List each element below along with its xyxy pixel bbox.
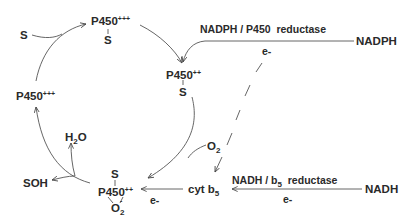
diagram-canvas: S P450+++ S P450++ S P450+++ NADPH / P45… [0,0,415,218]
nadh-reductase-label: NADH / b5 reductase [232,174,338,189]
water-o: O [78,131,87,143]
substrate-join-line [32,34,62,38]
dash-3 [236,110,240,120]
p450-right-charge: ++ [193,69,201,76]
p450-top-ligand: S [104,34,112,46]
node-p450-bottom: S P450++ O2 - [98,168,133,217]
arrow-top-to-right [140,25,182,63]
p450-right-ligand: S [179,86,187,98]
p450-bottom-o: O [111,202,120,214]
nadh-reductase-post: reductase [282,174,338,186]
arrow-bottom-to-left [36,107,90,183]
p450-left-label: P450 [16,90,43,102]
p450-bottom-o-sub: 2 [120,208,125,217]
water-h: H [65,131,73,143]
cyt-b5-subscript: 5 [215,189,220,198]
cyt-b5-label: cyt b5 [188,183,220,198]
dash-1 [256,63,262,72]
arrow-right-to-bottom [148,97,194,178]
nadph-label: NADPH [356,35,397,47]
p450-bottom-charge: ++ [125,186,133,193]
svg-text:P450++: P450++ [98,186,133,198]
nadh-label: NADH [365,183,398,195]
svg-text:O2: O2 [111,202,125,217]
p450-right-label: P450 [166,69,193,81]
svg-text:P450+++: P450+++ [91,15,130,27]
cyt-electron-label: e- [150,194,160,206]
nadph-reductase-label: NADPH / P450 reductase [200,23,326,35]
node-p450-right: P450++ S [166,69,201,98]
oxygen-join-line [188,145,206,158]
p450-bottom-ligand-top: S [111,168,119,180]
oxygen-symbol: O [207,140,216,152]
nadph-electron-label: e- [262,45,272,57]
p450-top-label: P450 [91,15,118,27]
substrate-label: S [20,29,28,41]
arrow-water-out [71,143,75,176]
cyt-b-text: cyt b [188,183,215,195]
p450-left-charge: +++ [43,90,55,97]
nadh-electron-label: e- [283,193,293,205]
dash-2 [245,85,250,96]
oxygen-subscript: 2 [216,146,221,155]
product-label: SOH [23,177,48,189]
nadh-reductase-pre: NADH / b [232,174,278,186]
node-p450-top: P450+++ S [91,15,130,46]
dash-arrow-end [215,157,222,172]
svg-text:P450++: P450++ [166,69,201,81]
oxygen-label: O2 [207,140,221,155]
dash-4 [227,133,232,145]
arrow-soh-out [52,176,75,180]
p450-top-charge: +++ [118,15,130,22]
p450-cycle-diagram: S P450+++ S P450++ S P450+++ NADPH / P45… [0,0,415,218]
water-label: H2O [65,131,87,146]
node-p450-left: P450+++ [16,90,55,102]
arrow-left-to-top [36,24,86,81]
svg-text:P450+++: P450+++ [16,90,55,102]
